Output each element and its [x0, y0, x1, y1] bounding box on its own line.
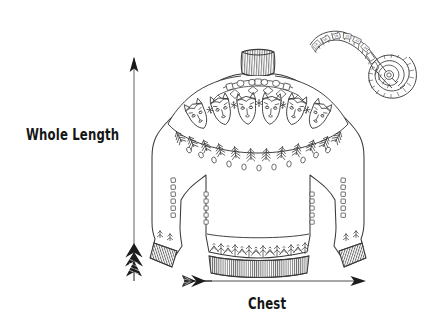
chest-label: Chest: [248, 297, 286, 312]
chest-arrow: [182, 275, 366, 287]
whole-length-arrow: [125, 57, 143, 281]
diagram-canvas: 14 16 18 20 22 24: [0, 0, 428, 335]
measurement-arrows: [0, 0, 428, 335]
whole-length-label: Whole Length: [26, 128, 119, 143]
